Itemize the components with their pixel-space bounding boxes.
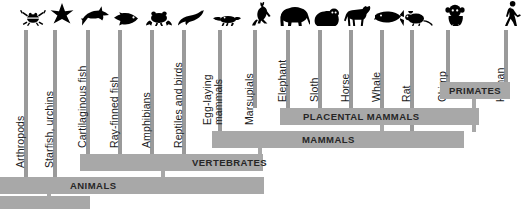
clade-bar-primates: PRIMATES xyxy=(440,82,510,99)
taxon-label: Reptiles and birds xyxy=(172,62,184,148)
cladogram-figure: ArthropodsStarfish, urchinsCartilaginous… xyxy=(0,0,528,209)
taxon-label: Whale xyxy=(370,72,382,102)
kangaroo-icon xyxy=(247,0,277,26)
starfish-icon xyxy=(47,0,77,26)
human-icon xyxy=(498,0,528,26)
shark-icon xyxy=(80,0,110,26)
clade-bar-placental-mammals: PLACENTAL MAMMALS xyxy=(280,108,479,125)
taxon-label: Elephant xyxy=(276,60,288,102)
platypus-icon xyxy=(212,0,242,26)
taxon-label: Cartilaginous fish xyxy=(76,66,88,148)
crab-icon xyxy=(18,0,48,26)
clade-bar-mammals: MAMMALS xyxy=(212,131,464,148)
taxon-label: Starfish, urchins xyxy=(43,91,55,168)
clade-bar-root xyxy=(0,196,90,209)
clade-label: PRIMATES xyxy=(449,85,501,96)
clade-bar-animals: ANIMALS xyxy=(0,177,264,194)
chimp-icon xyxy=(440,0,470,26)
taxon-label: Ray-finned fish xyxy=(108,76,120,148)
sloth-icon xyxy=(312,0,342,26)
clade-bar-vertebrates: VERTEBRATES xyxy=(80,154,263,171)
elephant-icon xyxy=(280,0,310,26)
taxon-label: Sloth xyxy=(308,78,320,102)
clade-label: PLACENTAL MAMMALS xyxy=(303,111,420,122)
bird-icon xyxy=(176,0,206,26)
clade-label: MAMMALS xyxy=(302,134,355,145)
fish-icon xyxy=(112,0,142,26)
clade-label: ANIMALS xyxy=(70,180,116,191)
taxon-label: Amphibians xyxy=(140,92,152,148)
horse-icon xyxy=(343,0,373,26)
taxon-label: Rat xyxy=(400,85,412,102)
whale-icon xyxy=(374,0,404,26)
frog-icon xyxy=(144,0,174,26)
taxon-label: Marsupials xyxy=(243,73,255,125)
taxon-label: Arthropods xyxy=(14,116,26,168)
taxon-label: Horse xyxy=(339,73,351,102)
taxon-label: Egg-laying mammals xyxy=(202,74,224,125)
rat-icon xyxy=(404,0,434,26)
clade-label: VERTEBRATES xyxy=(192,157,267,168)
